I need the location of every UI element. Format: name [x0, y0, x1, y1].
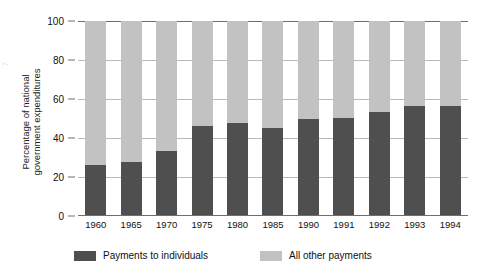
- margin-text-fragment: 7: [2, 62, 9, 66]
- bar-segment-payments-to-individuals-1960[interactable]: [85, 165, 106, 216]
- bar-stack: [156, 21, 177, 216]
- x-axis-label-1992: 1992: [362, 219, 397, 230]
- bar-segment-all-other-payments-1993[interactable]: [404, 21, 425, 106]
- y-tick-80: 80: [42, 55, 78, 66]
- legend-swatch-icon-other: [260, 251, 282, 261]
- bar-group-1975[interactable]: [184, 21, 219, 216]
- y-tick-label: 20: [42, 172, 64, 183]
- bar-group-1990[interactable]: [291, 21, 326, 216]
- bar-stack: [404, 21, 425, 216]
- legend-item-all-other-payments: All other payments: [260, 250, 372, 261]
- bar-stack: [369, 21, 390, 216]
- legend-label-other: All other payments: [289, 250, 372, 261]
- bar-stack: [262, 21, 283, 216]
- x-axis-label-1960: 1960: [78, 219, 113, 230]
- bar-segment-payments-to-individuals-1994[interactable]: [440, 106, 461, 216]
- bar-stack: [333, 21, 354, 216]
- x-axis-labels: 1960196519701975198019851990199119921993…: [78, 219, 468, 230]
- legend-label-individuals: Payments to individuals: [103, 250, 208, 261]
- legend-swatch-icon-individuals: [74, 251, 96, 261]
- x-axis-label-1994: 1994: [433, 219, 468, 230]
- bar-segment-payments-to-individuals-1990[interactable]: [298, 119, 319, 216]
- bar-segment-payments-to-individuals-1985[interactable]: [262, 128, 283, 216]
- bar-group-1993[interactable]: [397, 21, 432, 216]
- bar-group-1960[interactable]: [78, 21, 113, 216]
- y-tick-mark: [68, 99, 75, 100]
- bar-segment-payments-to-individuals-1975[interactable]: [192, 126, 213, 216]
- bar-segment-all-other-payments-1980[interactable]: [227, 21, 248, 123]
- bar-stack: [85, 21, 106, 216]
- legend-item-payments-to-individuals: Payments to individuals: [74, 250, 208, 261]
- y-tick-0: 0: [42, 211, 78, 222]
- y-tick-mark: [68, 138, 75, 139]
- y-tick-mark: [68, 177, 75, 178]
- y-tick-label: 100: [42, 16, 64, 27]
- x-axis-label-1975: 1975: [184, 219, 219, 230]
- y-tick-label: 40: [42, 133, 64, 144]
- bar-segment-all-other-payments-1965[interactable]: [121, 21, 142, 162]
- bar-segment-payments-to-individuals-1992[interactable]: [369, 112, 390, 216]
- bar-stack: [440, 21, 461, 216]
- y-tick-mark: [68, 60, 75, 61]
- y-tick-mark: [68, 21, 75, 22]
- bar-series-group: [78, 21, 468, 216]
- bar-stack: [227, 21, 248, 216]
- bar-segment-all-other-payments-1992[interactable]: [369, 21, 390, 112]
- bar-stack: [192, 21, 213, 216]
- bar-group-1980[interactable]: [220, 21, 255, 216]
- bar-group-1991[interactable]: [326, 21, 361, 216]
- x-axis-label-1965: 1965: [113, 219, 148, 230]
- plot-area: 020406080100: [78, 21, 468, 216]
- bar-segment-all-other-payments-1970[interactable]: [156, 21, 177, 151]
- bar-segment-payments-to-individuals-1980[interactable]: [227, 123, 248, 216]
- x-axis-label-1970: 1970: [149, 219, 184, 230]
- bar-segment-all-other-payments-1985[interactable]: [262, 21, 283, 128]
- chart-legend: Payments to individuals All other paymen…: [74, 250, 434, 264]
- y-tick-label: 0: [42, 211, 64, 222]
- bar-segment-all-other-payments-1991[interactable]: [333, 21, 354, 118]
- bar-segment-all-other-payments-1960[interactable]: [85, 21, 106, 165]
- bar-segment-all-other-payments-1975[interactable]: [192, 21, 213, 126]
- x-axis-line: [78, 215, 468, 216]
- y-axis-title-line-1: Percentage of national: [20, 74, 32, 169]
- stacked-bar-chart: 7 Percentage of national government expe…: [0, 0, 480, 280]
- bar-group-1994[interactable]: [433, 21, 468, 216]
- x-axis-label-1980: 1980: [220, 219, 255, 230]
- y-tick-label: 80: [42, 55, 64, 66]
- bar-segment-all-other-payments-1990[interactable]: [298, 21, 319, 119]
- bar-segment-payments-to-individuals-1965[interactable]: [121, 162, 142, 216]
- bar-group-1970[interactable]: [149, 21, 184, 216]
- bar-group-1992[interactable]: [362, 21, 397, 216]
- x-axis-label-1993: 1993: [397, 219, 432, 230]
- y-tick-60: 60: [42, 94, 78, 105]
- y-tick-40: 40: [42, 133, 78, 144]
- x-axis-label-1985: 1985: [255, 219, 290, 230]
- bar-segment-payments-to-individuals-1991[interactable]: [333, 118, 354, 216]
- bar-segment-all-other-payments-1994[interactable]: [440, 21, 461, 106]
- bar-group-1985[interactable]: [255, 21, 290, 216]
- y-tick-label: 60: [42, 94, 64, 105]
- x-axis-label-1991: 1991: [326, 219, 361, 230]
- y-tick-mark: [68, 216, 75, 217]
- y-tick-20: 20: [42, 172, 78, 183]
- bar-segment-payments-to-individuals-1993[interactable]: [404, 106, 425, 216]
- bar-segment-payments-to-individuals-1970[interactable]: [156, 151, 177, 216]
- y-tick-100: 100: [42, 16, 78, 27]
- y-axis-title-line-2: government expenditures: [31, 68, 43, 175]
- bar-group-1965[interactable]: [113, 21, 148, 216]
- bar-stack: [121, 21, 142, 216]
- x-axis-label-1990: 1990: [291, 219, 326, 230]
- bar-stack: [298, 21, 319, 216]
